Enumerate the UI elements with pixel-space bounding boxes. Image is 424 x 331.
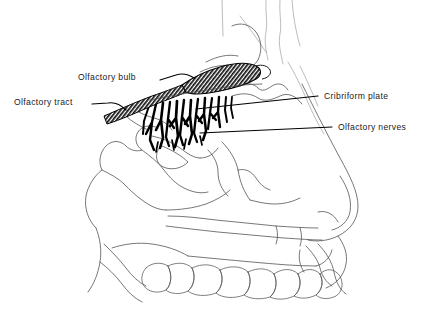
label-olfactory-tract: Olfactory tract bbox=[14, 97, 73, 107]
label-olfactory-bulb: Olfactory bulb bbox=[78, 72, 136, 82]
figure-background bbox=[0, 0, 424, 331]
skull-sagittal-diagram: Olfactory bulb Olfactory tract Cribrifor… bbox=[0, 0, 424, 331]
anatomical-figure: Olfactory bulb Olfactory tract Cribrifor… bbox=[0, 0, 424, 331]
label-olfactory-nerves: Olfactory nerves bbox=[338, 122, 406, 132]
label-cribriform-plate: Cribriform plate bbox=[324, 91, 388, 101]
